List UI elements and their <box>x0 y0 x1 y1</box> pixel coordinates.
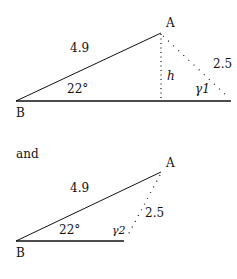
d2-angle-b-label: 22° <box>59 224 80 236</box>
triangle-ambiguous-case-figure: A 4.9 2.5 h 22° γ1 B and A 4.9 2.5 22° γ… <box>0 0 237 279</box>
d2-vertex-a-label: A <box>166 157 175 169</box>
diagram-lines <box>0 0 237 279</box>
d2-side-dotted-label: 2.5 <box>145 207 164 219</box>
d2-gamma-label: γ2 <box>112 225 126 237</box>
d1-vertex-b-label: B <box>16 107 25 119</box>
d2-side-dotted <box>128 175 160 235</box>
d1-height-label: h <box>167 70 175 82</box>
d2-side-ab-label: 4.9 <box>70 182 89 194</box>
d1-side-dotted-label: 2.5 <box>213 58 232 70</box>
d2-vertex-b-label: B <box>16 247 25 259</box>
d1-gamma-label: γ1 <box>195 83 210 95</box>
d1-angle-b-label: 22° <box>67 83 88 95</box>
d1-vertex-a-label: A <box>166 17 175 29</box>
d1-side-ab-label: 4.9 <box>70 42 89 54</box>
connector-text: and <box>16 148 39 160</box>
